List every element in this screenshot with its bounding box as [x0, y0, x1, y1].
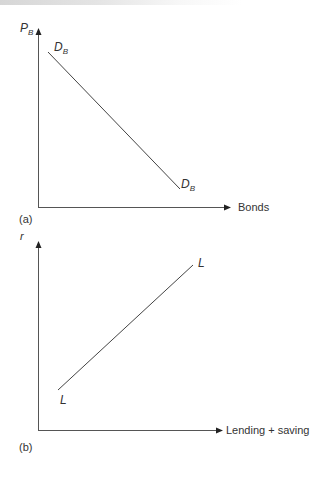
demand-bonds-curve [48, 52, 180, 189]
lending-curve [58, 265, 193, 390]
panel-b-y-axis-label: r [20, 230, 25, 242]
panel-b-tag: (b) [19, 441, 32, 453]
curve-end-label: DB [181, 177, 196, 193]
curve-start-label: DB [54, 40, 69, 56]
lending-curve-end-label: L [198, 256, 205, 270]
panel-b: r L L Lending + saving (b) [19, 230, 309, 453]
diagram-canvas: PB DB DB Bonds (a) r L L Lending + savin… [0, 0, 323, 477]
lending-curve-start-label: L [60, 393, 67, 407]
panel-a-y-axis-label: PB [20, 21, 34, 37]
panel-b-x-axis-label: Lending + saving [226, 424, 309, 436]
panel-a-x-axis-label: Bonds [238, 201, 270, 213]
panel-a-tag: (a) [19, 213, 32, 225]
panel-a: PB DB DB Bonds (a) [19, 21, 270, 225]
